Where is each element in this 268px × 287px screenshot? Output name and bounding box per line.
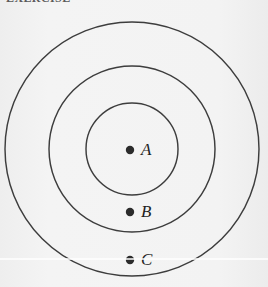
- point-dot-a: [126, 146, 134, 154]
- point-dot-b: [126, 208, 134, 216]
- point-dot-c: [126, 256, 134, 264]
- dots-group: [126, 146, 134, 264]
- concentric-circles-figure: EXERCISE ABC: [0, 0, 268, 287]
- circles-diagram: [0, 0, 268, 287]
